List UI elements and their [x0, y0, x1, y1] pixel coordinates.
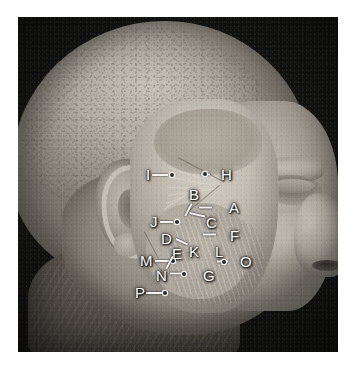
marker-point-o — [222, 260, 226, 264]
temporalis-muscle — [154, 109, 262, 175]
label-f: F — [230, 228, 239, 243]
label-l: L — [215, 244, 223, 259]
leader-line-j — [160, 221, 173, 223]
label-n: N — [156, 268, 167, 283]
leader-line-m — [155, 260, 169, 262]
label-j: J — [150, 214, 158, 229]
label-o: O — [240, 254, 252, 269]
label-i: I — [146, 167, 150, 182]
label-m: M — [140, 253, 153, 268]
label-b: B — [189, 187, 199, 202]
label-d: D — [161, 231, 172, 246]
photographic-plate — [18, 17, 338, 352]
leader-line-a — [199, 207, 212, 209]
marker-point-p — [163, 291, 167, 295]
anatomy-figure: ABCDEFGHIJKLMNOP — [0, 0, 355, 371]
label-g: G — [203, 268, 215, 283]
marker-point-h — [203, 172, 207, 176]
label-c: C — [206, 215, 217, 230]
label-k: K — [189, 244, 199, 259]
marker-point-g — [182, 272, 186, 276]
leader-line-f — [203, 234, 216, 236]
label-h: H — [221, 167, 232, 182]
label-p: P — [135, 285, 145, 300]
nostril — [312, 260, 338, 271]
leader-line-p — [146, 292, 162, 294]
label-a: A — [229, 200, 239, 215]
leader-line-i — [152, 174, 168, 176]
marker-point-i — [170, 173, 174, 177]
marker-point-j — [175, 220, 179, 224]
